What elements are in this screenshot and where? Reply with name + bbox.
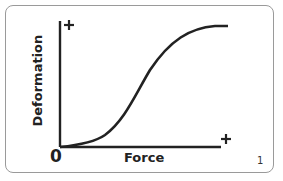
y-axis-label: Deformation	[30, 37, 45, 127]
y-axis-plus-icon	[64, 20, 74, 30]
origin-label: 0	[50, 146, 62, 166]
sigmoid-curve	[60, 26, 228, 147]
x-axis-label: Force	[124, 150, 164, 165]
page-number: 1	[257, 155, 263, 166]
x-axis-plus-icon	[221, 134, 231, 144]
